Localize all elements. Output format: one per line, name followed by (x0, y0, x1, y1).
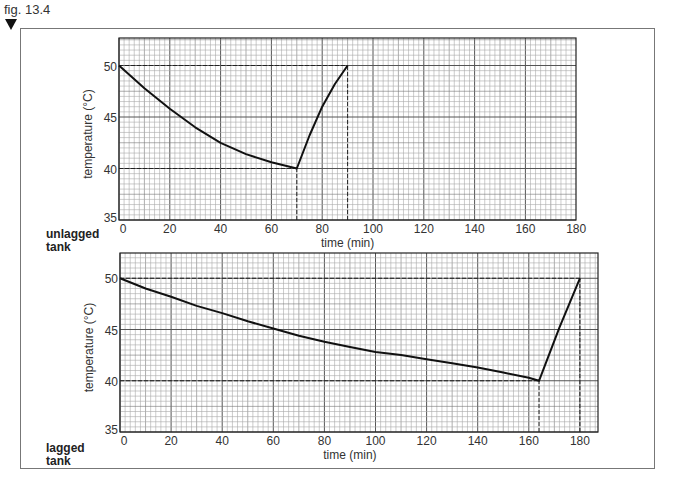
x-tick-label: 180 (570, 434, 590, 448)
x-tick-label: 120 (417, 434, 437, 448)
chart-unlagged-tank: 02040608010012014016018035404550time (mi… (81, 38, 587, 250)
x-tick-label: 80 (318, 434, 332, 448)
charts-canvas: 02040608010012014016018035404550time (mi… (0, 0, 688, 498)
x-tick-label: 60 (265, 222, 279, 236)
y-tick-label: 35 (104, 211, 118, 225)
x-tick-label: 20 (164, 434, 178, 448)
x-axis-label: time (min) (321, 236, 374, 250)
y-tick-label: 50 (104, 60, 118, 74)
x-tick-label: 120 (414, 222, 434, 236)
x-tick-label: 140 (465, 222, 485, 236)
x-tick-label: 40 (216, 434, 230, 448)
x-tick-label: 40 (214, 222, 228, 236)
tank-label-lagged: lagged tank (46, 442, 85, 468)
y-tick-label: 35 (105, 423, 119, 437)
x-tick-label: 0 (121, 434, 128, 448)
chart-lagged-tank: 02040608010012014016018035404550time (mi… (82, 253, 598, 462)
x-axis-label: time (min) (323, 448, 376, 462)
x-tick-label: 180 (566, 222, 586, 236)
x-tick-label: 0 (120, 222, 127, 236)
y-tick-label: 50 (105, 272, 119, 286)
y-axis-label: temperature (°C) (81, 89, 95, 179)
x-tick-label: 20 (163, 222, 177, 236)
tank-label-line2: tank (46, 455, 85, 468)
y-tick-label: 40 (105, 375, 119, 389)
tank-label-line2: tank (46, 241, 99, 254)
y-tick-label: 45 (104, 111, 118, 125)
x-tick-label: 160 (519, 434, 539, 448)
y-tick-label: 40 (104, 163, 118, 177)
y-tick-label: 45 (105, 324, 119, 338)
y-axis-label: temperature (°C) (82, 303, 96, 393)
x-tick-label: 140 (468, 434, 488, 448)
x-tick-label: 100 (363, 222, 383, 236)
x-tick-label: 100 (365, 434, 385, 448)
tank-label-unlagged: unlagged tank (46, 228, 99, 254)
x-tick-label: 80 (316, 222, 330, 236)
x-tick-label: 60 (267, 434, 281, 448)
x-tick-label: 160 (515, 222, 535, 236)
